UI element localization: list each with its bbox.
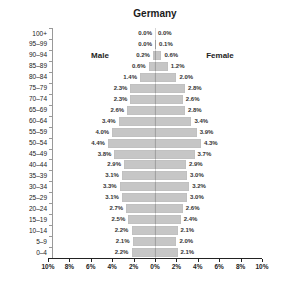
female-value-label: 3.0% [190, 172, 204, 178]
age-group-label: 15–19 [11, 216, 47, 223]
category-axis-tick [49, 50, 52, 51]
male-value-label: 3.1% [105, 172, 119, 178]
category-axis-tick [49, 116, 52, 117]
male-value-label: 0.6% [132, 63, 146, 69]
female-bar [155, 73, 176, 82]
male-bar [108, 139, 155, 148]
male-value-label: 2.1% [116, 238, 130, 244]
male-bar [140, 73, 155, 82]
male-bar [124, 160, 155, 169]
age-group-label: 50–54 [11, 139, 47, 146]
zero-center-line [155, 28, 156, 258]
x-axis-tick [219, 259, 220, 262]
category-axis-line [52, 28, 53, 258]
male-bar [132, 248, 156, 257]
age-group-label: 40–44 [11, 161, 47, 168]
female-value-label: 1.2% [171, 63, 185, 69]
female-value-label: 3.2% [192, 183, 206, 189]
x-axis-tick-label: 10% [36, 263, 60, 270]
female-bar [155, 182, 189, 191]
x-axis-tick-label: 2% [164, 263, 188, 270]
female-value-label: 4.3% [204, 140, 218, 146]
category-axis-tick [49, 181, 52, 182]
age-group-label: 0–4 [11, 249, 47, 256]
category-axis-tick [49, 247, 52, 248]
female-bar [155, 226, 178, 235]
age-group-label: 30–34 [11, 183, 47, 190]
male-value-label: 3.4% [102, 118, 116, 124]
male-value-label: 2.3% [114, 96, 128, 102]
male-bar [114, 150, 155, 159]
male-value-label: 2.9% [107, 161, 121, 167]
age-group-label: 45–49 [11, 150, 47, 157]
age-group-label: 85–89 [11, 62, 47, 69]
female-bar [155, 160, 186, 169]
male-value-label: 2.5% [112, 216, 126, 222]
female-bar [155, 150, 195, 159]
category-axis-tick [49, 192, 52, 193]
female-bar [155, 117, 191, 126]
age-group-label: 10–14 [11, 227, 47, 234]
female-value-label: 2.8% [188, 85, 202, 91]
female-bar [155, 215, 181, 224]
female-value-label: 3.4% [194, 118, 208, 124]
x-axis-tick [112, 259, 113, 262]
category-axis-tick [49, 127, 52, 128]
x-axis-tick-label: 4% [186, 263, 210, 270]
x-axis-tick-label: 8% [229, 263, 253, 270]
category-axis-tick [49, 72, 52, 73]
age-group-label: 95–99 [11, 40, 47, 47]
male-bar [122, 193, 155, 202]
female-value-label: 2.6% [186, 205, 200, 211]
x-axis-tick [262, 259, 263, 262]
x-axis-tick-label: 2% [122, 263, 146, 270]
age-group-label: 55–59 [11, 128, 47, 135]
female-value-label: 2.9% [189, 161, 203, 167]
female-value-label: 3.0% [190, 194, 204, 200]
female-bar [155, 193, 187, 202]
category-axis-tick [49, 138, 52, 139]
category-axis-tick [49, 159, 52, 160]
male-value-label: 0.2% [136, 52, 150, 58]
x-axis-tick-label: 0% [143, 263, 167, 270]
category-axis-tick [49, 225, 52, 226]
female-value-label: 2.0% [179, 74, 193, 80]
male-bar [112, 128, 155, 137]
x-axis-tick [91, 259, 92, 262]
female-bar [155, 62, 168, 71]
age-group-label: 100+ [11, 30, 47, 37]
male-value-label: 3.1% [105, 194, 119, 200]
female-bar [155, 204, 183, 213]
female-value-label: 2.6% [186, 96, 200, 102]
x-axis-tick [198, 259, 199, 262]
x-axis-tick-label: 8% [57, 263, 81, 270]
female-value-label: 2.0% [179, 238, 193, 244]
male-bar [122, 171, 155, 180]
female-bar [155, 171, 187, 180]
x-axis-tick [48, 259, 49, 262]
category-axis-tick [49, 39, 52, 40]
male-value-label: 2.3% [114, 85, 128, 91]
male-value-label: 2.2% [115, 249, 129, 255]
female-value-label: 2.1% [181, 249, 195, 255]
male-value-label: 0.0% [138, 41, 152, 47]
female-value-label: 0.1% [159, 41, 173, 47]
x-axis-tick [155, 259, 156, 262]
x-axis-tick-label: 4% [100, 263, 124, 270]
category-axis-tick [49, 61, 52, 62]
male-bar [133, 237, 156, 246]
category-axis-tick [49, 214, 52, 215]
age-group-label: 20–24 [11, 205, 47, 212]
category-axis-tick [49, 170, 52, 171]
male-value-label: 4.0% [96, 129, 110, 135]
male-bar [130, 95, 155, 104]
age-group-label: 90–94 [11, 51, 47, 58]
category-axis-tick [49, 203, 52, 204]
x-axis-tick [69, 259, 70, 262]
female-bar [155, 248, 178, 257]
age-group-label: 75–79 [11, 84, 47, 91]
x-axis-tick [134, 259, 135, 262]
male-value-label: 2.6% [111, 107, 125, 113]
female-value-label: 2.4% [184, 216, 198, 222]
age-group-label: 65–69 [11, 106, 47, 113]
